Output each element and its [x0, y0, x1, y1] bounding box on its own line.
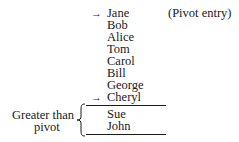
arrow-icon-cheryl: → — [91, 91, 102, 103]
entry-john: John — [107, 120, 131, 132]
arrow-icon-jane: → — [91, 7, 102, 19]
group-label-line2: pivot — [34, 121, 60, 133]
divider-bottom — [86, 134, 166, 135]
entry-cheryl: Cheryl — [107, 91, 141, 103]
divider-top — [86, 105, 166, 106]
curly-brace-icon — [76, 103, 86, 137]
pivot-entry-note: (Pivot entry) — [168, 7, 232, 19]
